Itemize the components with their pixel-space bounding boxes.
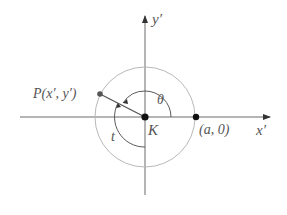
point-P xyxy=(97,91,103,97)
theta-label: θ xyxy=(157,92,164,107)
point-K xyxy=(141,113,148,120)
point-P-label: P(x′, y′) xyxy=(32,86,77,102)
t-label: t xyxy=(111,129,116,144)
point-a-label: (a, 0) xyxy=(199,122,230,138)
origin-label: K xyxy=(147,122,159,138)
point-a xyxy=(193,114,199,120)
y-axis-label: y′ xyxy=(150,11,163,27)
rotation-diagram: y′ x′ θ t K (a, 0) P(x′, y′) xyxy=(0,0,287,215)
x-axis-label: x′ xyxy=(255,122,267,138)
radius-segment xyxy=(100,94,145,117)
